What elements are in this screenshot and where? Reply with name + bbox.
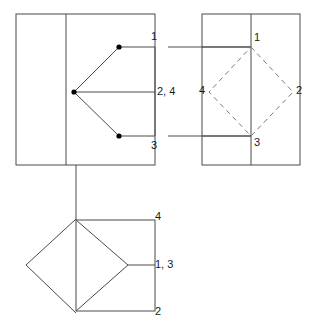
top-view-edge-bottom-to-apex: [76, 265, 128, 311]
label-front-point-2-4: 2, 4: [157, 86, 175, 97]
label-side-point-2: 2: [296, 85, 302, 96]
front-view-group: [16, 14, 155, 165]
label-side-point-4: 4: [199, 85, 205, 96]
label-side-point-1: 1: [254, 32, 260, 43]
label-top-point-4: 4: [155, 211, 161, 222]
label-top-point-2: 2: [155, 306, 161, 317]
front-edge-1-to-24: [74, 47, 119, 92]
label-front-point-1: 1: [151, 31, 157, 42]
drawing-svg: [0, 0, 315, 333]
label-top-point-1-3: 1, 3: [155, 259, 173, 270]
front-vertex-dot-2-4: [71, 89, 76, 94]
side-view-group: [202, 14, 300, 165]
top-view-edge-top-to-apex: [76, 220, 128, 265]
top-view-group: [26, 219, 155, 313]
front-view-outer-rect: [16, 14, 155, 165]
front-edge-24-to-3: [74, 92, 119, 136]
label-front-point-3: 3: [151, 140, 157, 151]
front-vertex-dot-3: [116, 133, 121, 138]
label-side-point-3: 3: [254, 137, 260, 148]
engineering-drawing-canvas: 1 2, 4 3 1 2 3 4 4 1, 3 2: [0, 0, 315, 333]
front-vertex-dot-1: [116, 44, 121, 49]
top-view-diamond-left-half: [26, 219, 76, 313]
